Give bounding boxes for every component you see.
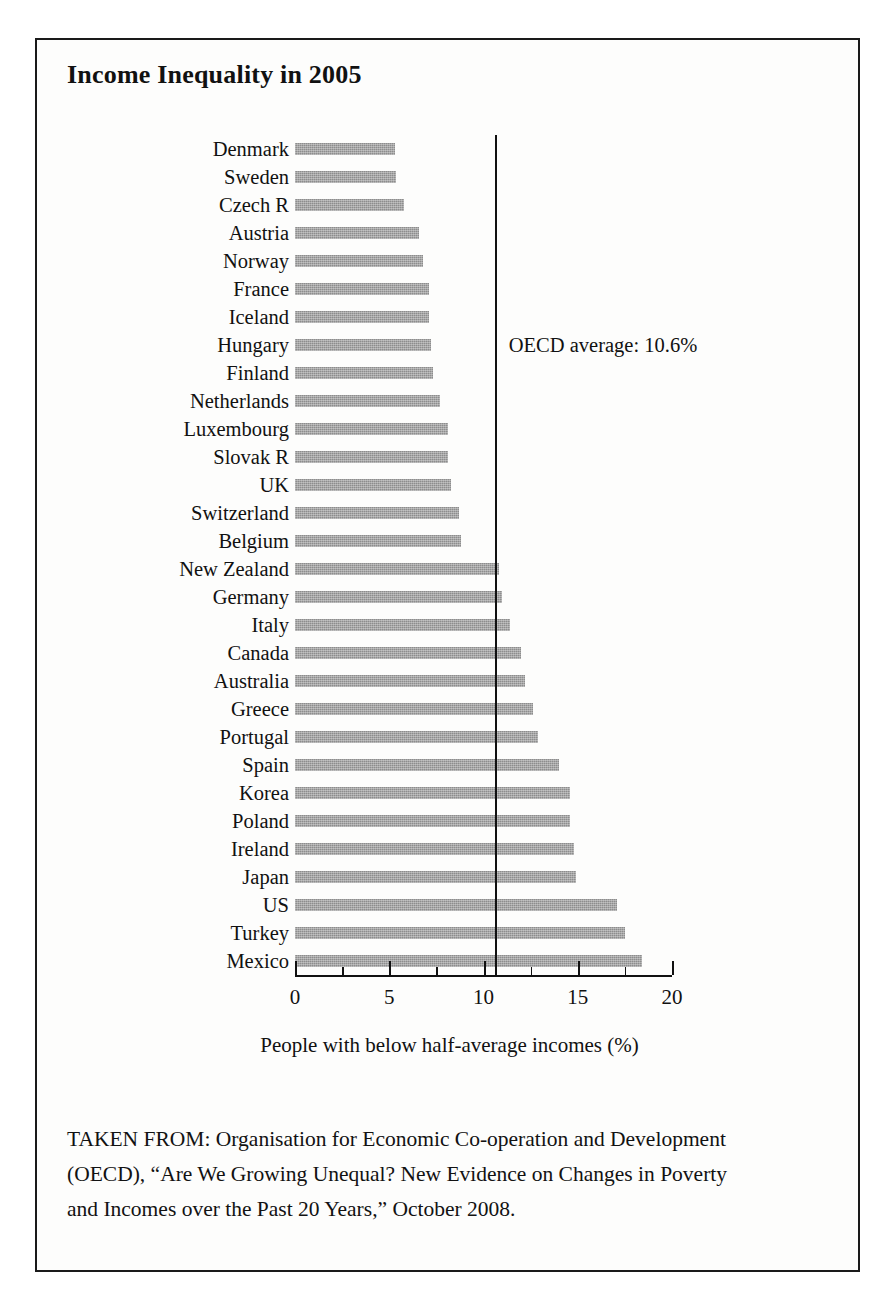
x-axis-tick (672, 961, 674, 975)
bar-category-label: Italy (29, 611, 289, 639)
bar (295, 171, 396, 183)
bar-row: Italy (37, 611, 862, 639)
bar-category-label: Slovak R (29, 443, 289, 471)
x-axis-tick-label: 15 (548, 985, 608, 1010)
bar-category-label: France (29, 275, 289, 303)
bar (295, 395, 440, 407)
bar-category-label: Belgium (29, 527, 289, 555)
bar-row: Canada (37, 639, 862, 667)
bar-row: Hungary (37, 331, 862, 359)
bar-row: Finland (37, 359, 862, 387)
bar (295, 451, 448, 463)
x-axis-tick (295, 961, 297, 975)
bar-rows: DenmarkSwedenCzech RAustriaNorwayFranceI… (37, 135, 862, 975)
bar-category-label: Greece (29, 695, 289, 723)
bar (295, 199, 404, 211)
bar (295, 955, 642, 967)
bar-category-label: UK (29, 471, 289, 499)
bar-row: France (37, 275, 862, 303)
oecd-average-line (495, 135, 497, 977)
bar-chart-plot-area: DenmarkSwedenCzech RAustriaNorwayFranceI… (37, 135, 862, 1015)
x-axis-tick-label: 20 (642, 985, 702, 1010)
x-axis-label: People with below half-average incomes (… (37, 1033, 862, 1058)
bar (295, 507, 459, 519)
bar (295, 647, 521, 659)
bar (295, 787, 570, 799)
bar-category-label: Ireland (29, 835, 289, 863)
bar (295, 899, 617, 911)
bar (295, 703, 533, 715)
page-title: Income Inequality in 2005 (67, 60, 362, 90)
bar-row: Spain (37, 751, 862, 779)
bar-row: Netherlands (37, 387, 862, 415)
x-axis-tick (578, 961, 580, 975)
bar-row: Austria (37, 219, 862, 247)
bar-row: Korea (37, 779, 862, 807)
x-axis-line (295, 975, 672, 977)
x-axis-tick (389, 961, 391, 975)
bar-row: New Zealand (37, 555, 862, 583)
bar-row: Luxembourg (37, 415, 862, 443)
x-axis-minor-tick (342, 967, 344, 975)
bar (295, 283, 429, 295)
x-axis-minor-tick (531, 967, 533, 975)
bar-category-label: New Zealand (29, 555, 289, 583)
bar-category-label: Portugal (29, 723, 289, 751)
bar (295, 731, 538, 743)
source-note: TAKEN FROM: Organisation for Economic Co… (67, 1122, 747, 1227)
bar-row: Sweden (37, 163, 862, 191)
bar (295, 339, 431, 351)
bar-row: Denmark (37, 135, 862, 163)
bar-category-label: Korea (29, 779, 289, 807)
bar-row: Iceland (37, 303, 862, 331)
x-axis-tick-label: 0 (265, 985, 325, 1010)
bar-category-label: Denmark (29, 135, 289, 163)
bar-category-label: US (29, 891, 289, 919)
bar-row: US (37, 891, 862, 919)
bar-category-label: Netherlands (29, 387, 289, 415)
bar-category-label: Turkey (29, 919, 289, 947)
x-axis-tick-label: 10 (454, 985, 514, 1010)
bar-row: Germany (37, 583, 862, 611)
bar (295, 675, 525, 687)
oecd-average-label: OECD average: 10.6% (509, 334, 697, 357)
bar-row: UK (37, 471, 862, 499)
bar-row: Turkey (37, 919, 862, 947)
bar (295, 311, 429, 323)
bar (295, 759, 559, 771)
bar (295, 479, 451, 491)
bar-row: Switzerland (37, 499, 862, 527)
x-axis: 05101520 (295, 975, 672, 976)
bar-row: Belgium (37, 527, 862, 555)
bar (295, 367, 433, 379)
bar (295, 619, 510, 631)
bar-category-label: Germany (29, 583, 289, 611)
bar-category-label: Austria (29, 219, 289, 247)
x-axis-tick (484, 961, 486, 975)
bar-category-label: Mexico (29, 947, 289, 975)
bar-category-label: Switzerland (29, 499, 289, 527)
bar-category-label: Poland (29, 807, 289, 835)
bar-category-label: Czech R (29, 191, 289, 219)
bar-row: Slovak R (37, 443, 862, 471)
bar (295, 535, 461, 547)
x-axis-minor-tick (436, 967, 438, 975)
bar-row: Greece (37, 695, 862, 723)
bar (295, 815, 570, 827)
bar-category-label: Luxembourg (29, 415, 289, 443)
bar-category-label: Canada (29, 639, 289, 667)
bar (295, 927, 625, 939)
bar-category-label: Norway (29, 247, 289, 275)
bar-row: Poland (37, 807, 862, 835)
bar-row: Australia (37, 667, 862, 695)
bar-category-label: Sweden (29, 163, 289, 191)
bar (295, 843, 574, 855)
bar-row: Mexico (37, 947, 862, 975)
x-axis-minor-tick (625, 967, 627, 975)
bar-category-label: Iceland (29, 303, 289, 331)
bar (295, 255, 423, 267)
bar (295, 227, 419, 239)
bar-category-label: Japan (29, 863, 289, 891)
bar-category-label: Finland (29, 359, 289, 387)
x-axis-tick-label: 5 (359, 985, 419, 1010)
